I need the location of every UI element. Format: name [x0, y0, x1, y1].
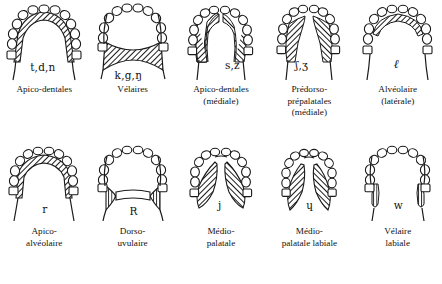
palatogram-cell-apico-dentales-mediale[interactable]: s,z Apico-dentales (médiale)	[177, 0, 265, 142]
palatogram-diagram-alveolaire-laterale: ℓ	[354, 0, 442, 82]
palatogram-diagram-apico-alveolaire: r	[0, 142, 88, 224]
palatogram-caption: Vélaires	[83, 84, 183, 96]
palatogram-caption: Prédorso- prépalatales (médiale)	[259, 84, 359, 119]
contact-region	[373, 14, 423, 36]
palatogram-cell-alveolaire-laterale[interactable]: ℓ Alvéolaire (latérale)	[354, 0, 442, 142]
palatogram-caption: Médio- palatale	[171, 226, 271, 249]
ipa-symbol: w	[394, 200, 403, 211]
palatogram-cell-dorso-uvulaire[interactable]: R Dorso- uvulaire	[89, 142, 177, 284]
ipa-symbol: k,g,ŋ	[115, 70, 143, 81]
ipa-symbol: s,z	[225, 60, 240, 71]
palatogram-caption: Apico-dentales	[0, 84, 94, 96]
palatogram-diagram-velaire-labiale: w	[354, 142, 442, 224]
palatogram-figure: t,d,n Apico-dentales	[0, 0, 442, 284]
palatogram-caption: Dorso- uvulaire	[83, 226, 183, 249]
palatogram-cell-medio-palatale-labiale[interactable]: ɥ Médio- palatale labiale	[265, 142, 353, 284]
ipa-symbol: ℓ	[394, 58, 399, 70]
ipa-symbol: r	[42, 204, 47, 215]
palatogram-diagram-medio-palatale-labiale: ɥ	[265, 142, 353, 224]
palatogram-caption: Médio- palatale labiale	[259, 226, 359, 249]
palatogram-cell-apico-alveolaire[interactable]: r Apico- alvéolaire	[0, 142, 88, 284]
palatogram-caption: Vélaire labiale	[348, 226, 442, 249]
contact-region	[286, 16, 332, 62]
ipa-symbol: ʃ,ʒ	[295, 60, 308, 71]
palatogram-caption: Apico-dentales (médiale)	[171, 84, 271, 107]
ipa-symbol: t,d,n	[30, 62, 55, 73]
palatogram-cell-velaire-labiale[interactable]: w Vélaire labiale	[354, 142, 442, 284]
palatogram-cell-predorso-prepalatales[interactable]: ʃ,ʒ Prédorso- prépalatales (médiale)	[265, 0, 353, 142]
palatogram-cell-apico-dentales[interactable]: t,d,n Apico-dentales	[0, 0, 88, 142]
palatogram-diagram-velaires: k,g,ŋ	[89, 0, 177, 82]
ipa-symbol: R	[130, 206, 138, 217]
contact-region	[103, 42, 163, 70]
ipa-symbol: j	[218, 200, 221, 211]
palatogram-row-2: r Apico- alvéolaire	[0, 142, 442, 284]
palatogram-diagram-apico-dentales: t,d,n	[0, 0, 88, 82]
palatogram-caption: Apico- alvéolaire	[0, 226, 94, 249]
palatogram-caption: Alvéolaire (latérale)	[348, 84, 442, 107]
palatogram-row-1: t,d,n Apico-dentales	[0, 0, 442, 142]
palatogram-diagram-medio-palatale: j	[177, 142, 265, 224]
teeth-outline	[363, 5, 432, 54]
palatogram-cell-velaires[interactable]: k,g,ŋ Vélaires	[89, 0, 177, 142]
palatogram-cell-medio-palatale[interactable]: j Médio- palatale	[177, 142, 265, 284]
ipa-symbol: ɥ	[306, 200, 313, 211]
palatogram-diagram-apico-dentales-mediale: s,z	[177, 0, 265, 82]
teeth-outline	[98, 146, 167, 192]
palatogram-diagram-dorso-uvulaire: R	[89, 142, 177, 224]
palatogram-diagram-predorso-prepalatales: ʃ,ʒ	[265, 0, 353, 82]
